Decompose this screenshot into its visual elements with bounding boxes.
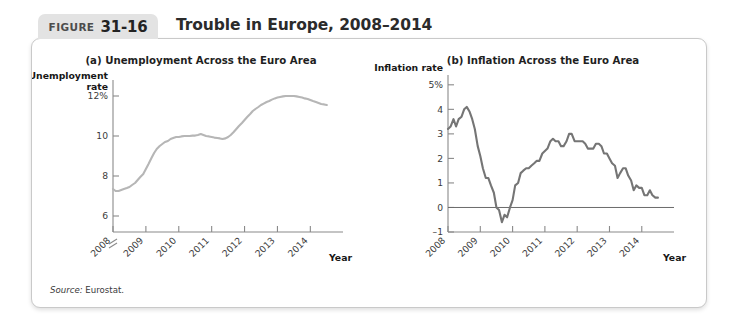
svg-text:6: 6 [102, 210, 108, 221]
svg-text:2013: 2013 [253, 235, 277, 259]
svg-text:4: 4 [437, 104, 443, 115]
svg-text:3: 3 [437, 128, 443, 139]
svg-text:12%: 12% [88, 90, 109, 101]
figure-badge-number: 31-16 [100, 18, 147, 36]
svg-text:2011: 2011 [520, 235, 544, 259]
svg-text:2012: 2012 [552, 235, 576, 259]
svg-text:2012: 2012 [220, 235, 244, 259]
svg-text:2014: 2014 [285, 235, 309, 259]
svg-text:2010: 2010 [154, 235, 178, 259]
svg-text:2010: 2010 [488, 235, 512, 259]
chart-a-svg: Unemploymentrate12%108620082009201020112… [32, 47, 370, 272]
svg-text:1: 1 [437, 177, 443, 188]
figure-panel: (a) Unemployment Across the Euro Area Un… [31, 38, 707, 308]
source-value: Eurostat. [85, 285, 124, 295]
figure-title: Trouble in Europe, 2008–2014 [176, 16, 432, 34]
figure-badge-word: FIGURE [49, 21, 95, 33]
chart-unemployment: (a) Unemployment Across the Euro Area Un… [32, 47, 370, 272]
svg-text:5%: 5% [428, 79, 443, 90]
svg-text:10: 10 [96, 130, 108, 141]
svg-text:2014: 2014 [617, 235, 641, 259]
svg-text:8: 8 [102, 170, 108, 181]
source-line: Source: Eurostat. [50, 285, 124, 295]
svg-text:2011: 2011 [187, 235, 211, 259]
svg-text:2009: 2009 [121, 235, 145, 259]
svg-text:2013: 2013 [585, 235, 609, 259]
svg-text:2008: 2008 [88, 235, 112, 259]
chart-inflation: (b) Inflation Across the Euro Area Infla… [370, 47, 708, 272]
svg-text:Unemployment: Unemployment [32, 70, 109, 81]
svg-text:Inflation rate: Inflation rate [374, 62, 443, 73]
svg-text:2: 2 [437, 153, 443, 164]
chart-b-svg: Inflation rate5%43210–120082009201020112… [370, 47, 708, 272]
source-label: Source: [50, 285, 83, 295]
svg-text:Year: Year [662, 252, 686, 263]
svg-text:Year: Year [328, 252, 352, 263]
svg-text:0: 0 [437, 202, 443, 213]
svg-text:2008: 2008 [423, 235, 447, 259]
svg-text:2009: 2009 [455, 235, 479, 259]
figure-badge: FIGURE 31-16 [38, 14, 158, 39]
